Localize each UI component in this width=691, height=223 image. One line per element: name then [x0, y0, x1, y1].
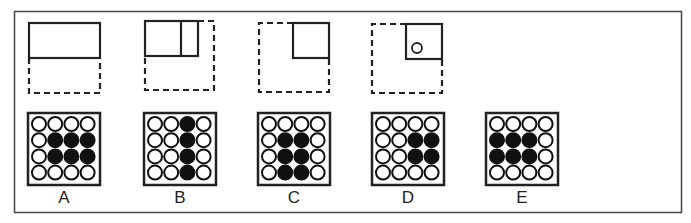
empty-hole-icon — [262, 149, 276, 163]
filled-hole-icon — [180, 149, 194, 163]
empty-hole-icon — [164, 166, 178, 180]
filled-hole-icon — [425, 149, 439, 163]
empty-hole-icon — [148, 166, 162, 180]
filled-hole-icon — [408, 149, 422, 163]
empty-hole-icon — [164, 117, 178, 131]
filled-hole-icon — [490, 149, 504, 163]
empty-hole-icon — [392, 117, 406, 131]
empty-hole-icon — [408, 166, 422, 180]
empty-hole-icon — [376, 149, 390, 163]
empty-hole-icon — [506, 166, 520, 180]
empty-hole-icon — [425, 117, 439, 131]
empty-hole-icon — [148, 117, 162, 131]
filled-hole-icon — [278, 133, 292, 147]
empty-hole-icon — [376, 133, 390, 147]
option-c[interactable] — [258, 113, 330, 185]
empty-hole-icon — [425, 166, 439, 180]
filled-hole-icon — [64, 133, 78, 147]
empty-hole-icon — [32, 117, 46, 131]
empty-hole-icon — [32, 166, 46, 180]
empty-hole-icon — [48, 117, 62, 131]
empty-hole-icon — [539, 117, 553, 131]
filled-hole-icon — [278, 149, 292, 163]
filled-hole-icon — [81, 133, 95, 147]
filled-hole-icon — [294, 166, 308, 180]
empty-hole-icon — [197, 166, 211, 180]
option-label: A — [44, 188, 84, 208]
filled-hole-icon — [425, 133, 439, 147]
filled-hole-icon — [408, 133, 422, 147]
filled-hole-icon — [506, 133, 520, 147]
empty-hole-icon — [311, 117, 325, 131]
empty-hole-icon — [392, 166, 406, 180]
empty-hole-icon — [262, 166, 276, 180]
filled-hole-icon — [506, 149, 520, 163]
filled-hole-icon — [522, 149, 536, 163]
empty-hole-icon — [294, 117, 308, 131]
option-a[interactable] — [28, 113, 100, 185]
filled-hole-icon — [180, 117, 194, 131]
filled-hole-icon — [180, 133, 194, 147]
empty-hole-icon — [539, 166, 553, 180]
empty-hole-icon — [262, 133, 276, 147]
filled-hole-icon — [522, 133, 536, 147]
empty-hole-icon — [522, 166, 536, 180]
empty-hole-icon — [376, 117, 390, 131]
empty-hole-icon — [197, 133, 211, 147]
empty-hole-icon — [148, 133, 162, 147]
empty-hole-icon — [32, 133, 46, 147]
puzzle-figure — [0, 0, 691, 223]
empty-hole-icon — [311, 133, 325, 147]
filled-hole-icon — [81, 149, 95, 163]
empty-hole-icon — [81, 166, 95, 180]
filled-hole-icon — [294, 149, 308, 163]
empty-hole-icon — [392, 133, 406, 147]
option-e[interactable] — [486, 113, 558, 185]
empty-hole-icon — [197, 149, 211, 163]
filled-hole-icon — [294, 133, 308, 147]
option-label: B — [160, 188, 200, 208]
empty-hole-icon — [490, 166, 504, 180]
empty-hole-icon — [64, 117, 78, 131]
empty-hole-icon — [408, 117, 422, 131]
empty-hole-icon — [48, 166, 62, 180]
empty-hole-icon — [392, 149, 406, 163]
option-d[interactable] — [372, 113, 444, 185]
empty-hole-icon — [262, 117, 276, 131]
empty-hole-icon — [32, 149, 46, 163]
empty-hole-icon — [81, 117, 95, 131]
empty-hole-icon — [164, 133, 178, 147]
option-b[interactable] — [144, 113, 216, 185]
empty-hole-icon — [148, 149, 162, 163]
filled-hole-icon — [48, 149, 62, 163]
filled-hole-icon — [278, 166, 292, 180]
empty-hole-icon — [539, 133, 553, 147]
empty-hole-icon — [539, 149, 553, 163]
outer-frame — [15, 12, 682, 213]
empty-hole-icon — [311, 166, 325, 180]
filled-hole-icon — [180, 166, 194, 180]
option-label: D — [388, 188, 428, 208]
filled-hole-icon — [64, 149, 78, 163]
empty-hole-icon — [64, 166, 78, 180]
empty-hole-icon — [522, 117, 536, 131]
option-label: C — [274, 188, 314, 208]
empty-hole-icon — [278, 117, 292, 131]
empty-hole-icon — [376, 166, 390, 180]
empty-hole-icon — [197, 117, 211, 131]
empty-hole-icon — [506, 117, 520, 131]
empty-hole-icon — [490, 117, 504, 131]
option-label: E — [502, 188, 542, 208]
filled-hole-icon — [48, 133, 62, 147]
empty-hole-icon — [164, 149, 178, 163]
filled-hole-icon — [490, 133, 504, 147]
empty-hole-icon — [311, 149, 325, 163]
